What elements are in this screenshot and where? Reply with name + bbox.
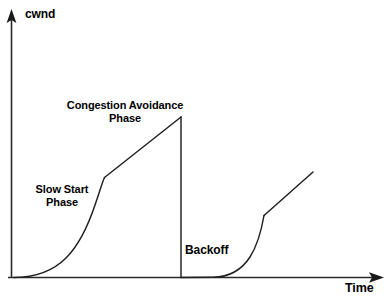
congestion-avoidance-ramp-1 [105, 117, 182, 178]
y-axis [7, 9, 17, 278]
annotation-congestion-avoidance-phase: Congestion Avoidance Phase [56, 99, 194, 125]
annotation-slow-start-line1: Slow Start [27, 183, 97, 196]
annotation-congestion-avoidance-line2: Phase [56, 112, 194, 125]
annotation-congestion-avoidance-line1: Congestion Avoidance [56, 99, 194, 112]
annotation-backoff: Backoff [185, 243, 228, 257]
x-axis-label: Time [345, 281, 374, 296]
annotation-slow-start-line2: Phase [27, 196, 97, 209]
congestion-avoidance-ramp-2 [264, 172, 313, 216]
tcp-congestion-window-figure: cwnd Time Congestion Avoidance Phase Slo… [0, 0, 387, 296]
annotation-slow-start-phase: Slow Start Phase [27, 183, 97, 209]
y-axis-label: cwnd [25, 7, 55, 21]
